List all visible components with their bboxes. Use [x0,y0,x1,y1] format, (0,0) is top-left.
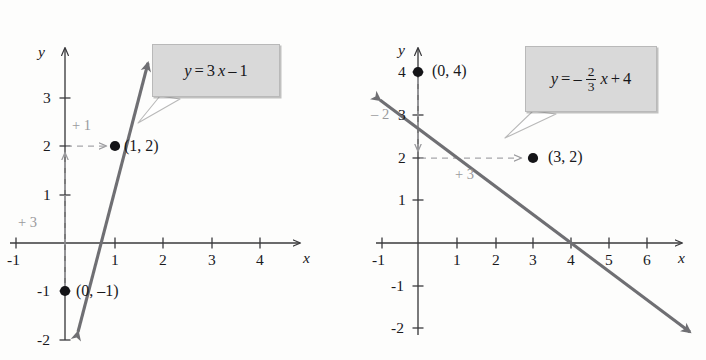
y-tick-neg2-left: -2 [37,332,50,348]
x-axis-label-right: x [678,250,685,266]
eq-left-operator: – [228,61,236,81]
eq-left-var: x [218,61,225,81]
eq-right-intercept: 4 [623,69,631,89]
equation-right: y = – 2 3 x + 4 [551,65,632,94]
fraction-denominator: 3 [586,79,597,94]
y-tick-4-right: 4 [398,64,406,80]
point-label-3-2: (3, 2) [548,149,583,165]
point-3-2 [528,153,538,163]
callout-tail-left [138,96,180,123]
point-label-0-neg1: (0, –1) [76,283,119,299]
y-axis-label-right: y [398,42,405,58]
y-tick-3-right: 3 [398,107,406,123]
y-axis-label-left: y [38,44,45,60]
point-label-0-4: (0, 4) [432,63,467,79]
point-0-neg1 [60,286,70,296]
point-label-1-2: (1, 2) [124,138,159,154]
y-tick-2-left: 2 [43,138,51,154]
x-axis-label-left: x [303,250,310,266]
eq-right-sign: – [573,69,581,89]
y-tick-neg1-right: -1 [391,278,404,294]
x-tick-4-left: 4 [256,252,264,268]
callout-tail-right [505,111,556,138]
equation-callout-left: y = 3x – 1 [152,44,280,97]
fraction-two-thirds: 2 3 [586,65,597,94]
fraction-numerator: 2 [586,65,597,79]
y-tick-neg2-right: -2 [391,320,404,336]
eq-left-slope: 3 [207,61,215,81]
eq-left-lhs: y [184,61,191,81]
y-tick-3-left: 3 [43,90,51,106]
eq-right-lhs: y [551,69,558,89]
run-annotation-left: + 1 [72,118,91,133]
rise-annotation-right: – 2 [371,107,389,122]
y-tick-2-right: 2 [398,150,406,166]
x-tick-2-right: 2 [492,252,500,268]
eq-left-equals: = [194,61,203,81]
point-1-2 [110,141,120,151]
x-tick-3-left: 3 [208,252,216,268]
equation-left: y = 3x – 1 [184,61,248,81]
run-annotation-right: + 3 [455,167,474,182]
x-tick-neg1-right: -1 [372,252,385,268]
equation-callout-right: y = – 2 3 x + 4 [525,46,657,112]
y-tick-1-right: 1 [398,192,406,208]
eq-right-operator: + [611,69,620,89]
x-tick-4-right: 4 [567,252,575,268]
x-tick-2-left: 2 [159,252,167,268]
x-tick-3-right: 3 [529,252,537,268]
point-0-4 [413,67,423,77]
eq-right-var: x [600,69,607,89]
rise-annotation-left: + 3 [18,215,37,230]
line-y-equals-neg-two-thirds-x-plus-4 [380,100,690,332]
eq-left-intercept: 1 [240,61,248,81]
left-slope-guides [65,146,106,289]
x-tick-5-right: 5 [605,252,613,268]
x-tick-neg1-left: -1 [7,252,20,268]
slope-intercept-figure: y x 3 2 1 -1 -2 -1 1 2 3 4 + 1 + 3 (1, 2… [0,0,706,360]
x-tick-1-left: 1 [111,252,119,268]
x-tick-1-right: 1 [453,252,461,268]
eq-right-equals: = [561,69,570,89]
x-tick-6-right: 6 [643,252,651,268]
right-slope-guides [418,78,521,158]
y-tick-neg1-left: -1 [37,283,50,299]
y-tick-1-left: 1 [43,187,51,203]
